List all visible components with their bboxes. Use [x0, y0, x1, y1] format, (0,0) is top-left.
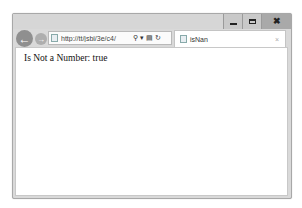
back-arrow-icon: ←: [19, 32, 31, 46]
tab-title: isNan: [190, 36, 275, 43]
address-url[interactable]: http://tt/jsbi/3e/c4/: [61, 35, 131, 42]
page-content: Is Not a Number: true: [15, 47, 288, 196]
forward-arrow-icon: →: [37, 35, 45, 44]
dropdown-icon[interactable]: ▾: [140, 34, 144, 42]
compatibility-view-icon[interactable]: ▤: [146, 34, 153, 42]
close-icon: ✖: [273, 17, 281, 26]
window-controls: ✖: [223, 14, 291, 29]
page-icon: [180, 35, 187, 43]
result-text: Is Not a Number: true: [24, 53, 107, 63]
maximize-icon: [249, 19, 256, 24]
refresh-icon[interactable]: ↻: [155, 34, 161, 42]
tab-close-icon[interactable]: ×: [275, 36, 279, 43]
forward-button[interactable]: →: [35, 33, 47, 45]
search-icon[interactable]: ⚲: [133, 34, 138, 42]
page-icon: [51, 34, 58, 42]
close-window-button[interactable]: ✖: [261, 14, 291, 29]
tab-isnan[interactable]: isNan ×: [174, 30, 286, 47]
minimize-icon: [230, 23, 237, 25]
navigation-toolbar: ← → http://tt/jsbi/3e/c4/ ⚲ ▾ ▤ ↻ isNan …: [13, 29, 291, 47]
minimize-button[interactable]: [223, 14, 242, 29]
browser-window: ✖ ← → http://tt/jsbi/3e/c4/ ⚲ ▾ ▤ ↻ isNa…: [12, 13, 292, 199]
address-bar[interactable]: http://tt/jsbi/3e/c4/ ⚲ ▾ ▤ ↻: [48, 31, 172, 45]
maximize-button[interactable]: [242, 14, 261, 29]
back-button[interactable]: ←: [16, 30, 33, 47]
title-bar[interactable]: ✖: [13, 14, 291, 29]
